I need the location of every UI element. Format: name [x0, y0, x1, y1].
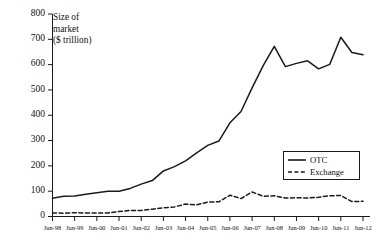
legend-item-exchange: Exchange — [288, 166, 360, 178]
y-axis-tick-label: 200 — [19, 161, 45, 171]
chart-container: 0100200300400500600700800 Jun-98Jun-99Ju… — [0, 0, 383, 242]
legend-swatch-solid-icon — [288, 159, 306, 161]
legend-label-exchange: Exchange — [310, 166, 344, 178]
y-axis-ticks — [48, 14, 53, 217]
legend-label-otc: OTC — [310, 154, 327, 166]
y-axis-title-line-2: market — [53, 24, 91, 36]
series-line-exchange — [53, 192, 364, 213]
legend-item-otc: OTC — [288, 154, 360, 166]
y-axis-title-line-1: Size of — [53, 12, 91, 24]
y-axis-tick-label: 700 — [19, 34, 45, 44]
y-axis-title: Size of market ($ trillion) — [53, 12, 91, 47]
y-axis-tick-label: 300 — [19, 135, 45, 145]
x-axis-ticks — [53, 217, 364, 222]
legend-swatch-dashed-icon — [288, 171, 306, 173]
x-axis-tick-label: Jun-12 — [348, 224, 378, 231]
y-axis-tick-label: 400 — [19, 110, 45, 120]
y-axis-tick-label: 800 — [19, 9, 45, 19]
chart-legend: OTC Exchange — [283, 151, 360, 180]
y-axis-title-line-3: ($ trillion) — [53, 35, 91, 47]
y-axis-tick-label: 500 — [19, 85, 45, 95]
y-axis-tick-label: 100 — [19, 186, 45, 196]
y-axis-tick-label: 0 — [19, 211, 45, 221]
y-axis-tick-label: 600 — [19, 59, 45, 69]
